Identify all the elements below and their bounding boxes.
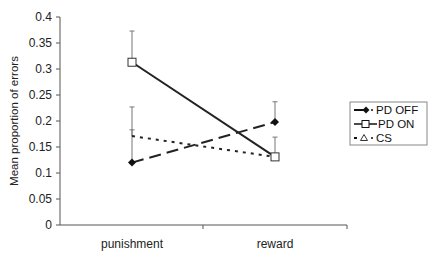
x-tick-label-punishment: punishment <box>101 237 164 251</box>
svg-text:PD ON: PD ON <box>378 118 414 130</box>
y-tick-label: 0.15 <box>29 140 53 154</box>
y-axis-title: Mean proportion of errors <box>8 56 20 186</box>
y-tick-label: 0 <box>45 218 52 232</box>
y-tick-label: 0.4 <box>35 10 52 24</box>
y-tick-label: 0.1 <box>35 166 52 180</box>
square-marker-icon <box>362 121 369 128</box>
y-tick-label: 0.05 <box>29 192 53 206</box>
x-axis: punishment reward <box>60 225 347 251</box>
y-tick-label: 0.35 <box>29 36 53 50</box>
square-marker-icon <box>271 153 279 161</box>
legend: PD OFF PD ON CS <box>350 102 427 145</box>
y-tick-label: 0.2 <box>35 114 52 128</box>
svg-text:CS: CS <box>376 132 392 144</box>
diamond-marker-icon <box>271 118 279 126</box>
svg-text:PD OFF: PD OFF <box>376 104 418 116</box>
y-tick-label: 0.3 <box>35 62 52 76</box>
y-tick-label: 0.25 <box>29 88 53 102</box>
x-tick-label-reward: reward <box>257 237 294 251</box>
plot-area <box>128 31 279 167</box>
square-marker-icon <box>128 58 136 66</box>
line-chart: Mean proportion of errors 00.050.10.150.… <box>0 0 433 261</box>
series-line <box>132 136 275 157</box>
diamond-marker-icon <box>128 159 136 167</box>
y-axis: 00.050.10.150.20.250.30.350.4 <box>29 10 60 232</box>
